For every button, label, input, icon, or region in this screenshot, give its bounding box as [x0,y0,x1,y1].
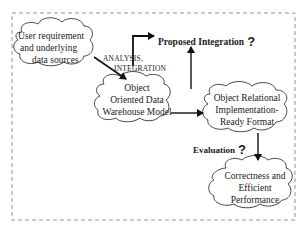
evaluation-label: Evaluation? [193,143,246,157]
integration-label: INTEGRATION [103,64,166,74]
node-perf-line-1: Correctness and [218,170,292,182]
node-oodw-label: Object Oriented Data Warehouse Model [101,82,173,118]
node-source-line-3: data sources [17,54,93,66]
question-mark-icon: ? [247,34,255,49]
node-or-line-3: Ready Format [205,116,289,128]
evaluation-text: Evaluation [193,145,235,155]
node-oodw-line-1: Object [101,82,173,94]
node-oodw-line-3: Warehouse Model [101,106,173,118]
node-or-line-2: Implementation- [205,104,289,116]
node-perf-line-3: Performance [218,194,292,206]
node-perf-line-2: Efficient [218,182,292,194]
node-oodw-line-2: Oriented Data [101,94,173,106]
node-performance-label: Correctness and Efficient Performance [218,170,292,206]
analysis-label: ANALYSIS, [103,54,143,63]
proposed-integration-label: Proposed Integration? [158,35,255,49]
node-source-line-1: User requirement [17,30,93,42]
node-source-line-2: and underlying [17,42,93,54]
proposed-integration-text: Proposed Integration [158,37,244,47]
question-mark-icon: ? [238,142,246,157]
node-or-line-1: Object Relational [205,92,289,104]
analysis-integration-label: ANALYSIS, INTEGRATION [103,54,166,74]
node-source-label: User requirement and underlying data sou… [17,30,93,66]
node-object-relational-label: Object Relational Implementation- Ready … [205,92,289,128]
